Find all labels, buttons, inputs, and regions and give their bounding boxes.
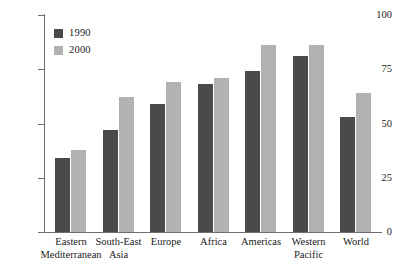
- category-label-line: World: [317, 236, 395, 249]
- x-axis-category-label: World: [317, 236, 395, 249]
- category-label-line: Asia: [80, 249, 158, 262]
- bar-1990: [340, 117, 355, 232]
- plot-area: [44, 15, 376, 232]
- bar-group: [143, 15, 189, 232]
- bar-group: [286, 15, 332, 232]
- bar-1990: [293, 56, 308, 232]
- y-axis-tick: [38, 232, 44, 233]
- bar-1990: [150, 104, 165, 232]
- bar-2000: [119, 97, 134, 232]
- category-label-line: Pacific: [270, 249, 348, 262]
- bar-2000: [71, 150, 86, 232]
- bar-group: [48, 15, 94, 232]
- bar-2000: [309, 45, 324, 232]
- bar-2000: [356, 93, 371, 232]
- bar-group: [333, 15, 379, 232]
- bar-2000: [166, 82, 181, 232]
- bar-group: [238, 15, 284, 232]
- bar-2000: [214, 78, 229, 232]
- bar-2000: [261, 45, 276, 232]
- bar-group: [96, 15, 142, 232]
- bar-group: [191, 15, 237, 232]
- bar-1990: [55, 158, 70, 232]
- bar-1990: [245, 71, 260, 232]
- bar-1990: [198, 84, 213, 232]
- x-axis-line: [44, 232, 382, 233]
- bar-1990: [103, 130, 118, 232]
